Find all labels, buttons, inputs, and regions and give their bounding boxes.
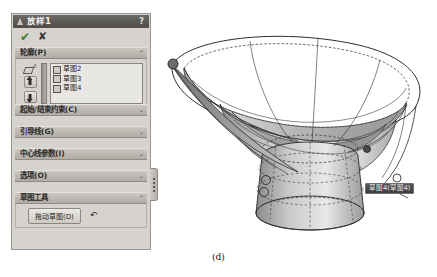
handle-dots (153, 178, 155, 192)
list-item[interactable]: 草图2 (53, 65, 140, 75)
loft-cone-icon (16, 17, 24, 26)
graphics-viewport[interactable] (158, 8, 437, 250)
section-centerline-parameters-label: 中心线参数(I) (20, 148, 139, 160)
panel-title: 放样1 (27, 15, 139, 28)
profile-selection-list[interactable]: 草图2 草图3 草图4 (50, 63, 143, 104)
selection-color-bar (41, 63, 47, 104)
section-sketch-tools: 草图工具 ⌃ 拖动草图(D) ↷ (15, 192, 147, 228)
section-guide-curves-label: 引导线(G) (20, 126, 139, 138)
panel-titlebar: 放样1 ? (13, 15, 149, 28)
section-start-end-constraints[interactable]: 起始/结束约束(C) ⌄ (15, 104, 147, 116)
section-guide-curves[interactable]: 引导线(G) ⌄ (15, 126, 147, 138)
move-down-button[interactable] (24, 91, 37, 103)
chevron-down-icon[interactable]: ⌄ (139, 104, 144, 116)
drag-sketch-button[interactable]: 拖动草图(D) (28, 208, 81, 224)
sketch-icon (53, 75, 61, 83)
lofted-funnel-surface (158, 8, 437, 250)
sketch-point-handle-4[interactable] (393, 174, 401, 182)
cancel-x-icon[interactable]: ✘ (38, 31, 47, 42)
section-guide-curves-header[interactable]: 引导线(G) ⌄ (15, 126, 147, 138)
section-sketch-tools-body: 拖动草图(D) ↷ (15, 204, 147, 228)
move-up-button[interactable] (24, 76, 37, 88)
spline-endpoint-handle[interactable] (168, 59, 178, 69)
profile-controls: 0 (19, 62, 41, 106)
profile-parallelogram-icon: 0 (24, 63, 37, 74)
section-options-label: 选项(O) (20, 170, 139, 182)
section-profile: 轮廓(P) ⌃ 0 草图2 草图3 (15, 47, 147, 110)
profile-icon-superscript: 0 (33, 63, 36, 69)
figure-caption: (d) (0, 252, 437, 262)
selection-callout-label: 草图4(草图4) (369, 184, 410, 193)
section-sketch-tools-label: 草图工具 (20, 192, 139, 204)
list-item[interactable]: 草图4 (53, 84, 140, 94)
list-item-label: 草图2 (63, 65, 81, 75)
section-options-header[interactable]: 选项(O) ⌄ (15, 170, 147, 182)
section-profile-header[interactable]: 轮廓(P) ⌃ (15, 47, 147, 59)
list-item[interactable]: 草图3 (53, 75, 140, 85)
selection-callout[interactable]: 草图4(草图4) (365, 183, 414, 194)
section-profile-body: 0 草图2 草图3 草图4 (15, 59, 147, 110)
sketch-icon (53, 66, 61, 74)
chevron-down-icon[interactable]: ⌄ (139, 126, 144, 138)
help-button[interactable]: ? (139, 17, 146, 26)
undo-arrow-icon[interactable]: ↷ (90, 211, 98, 220)
panel-drag-handle-icon[interactable] (150, 168, 158, 201)
section-profile-label: 轮廓(P) (20, 47, 139, 59)
loft-property-manager-panel: 放样1 ? ✔ ✘ 轮廓(P) ⌃ 0 草图2 (11, 13, 151, 250)
section-start-end-constraints-header[interactable]: 起始/结束约束(C) ⌄ (15, 104, 147, 116)
chevron-down-icon[interactable]: ⌄ (139, 170, 144, 182)
section-centerline-parameters-header[interactable]: 中心线参数(I) ⌄ (15, 148, 147, 160)
sketch-point-handle-3[interactable] (364, 146, 371, 153)
sketch-icon (53, 85, 61, 93)
section-options[interactable]: 选项(O) ⌄ (15, 170, 147, 182)
ok-checkmark-icon[interactable]: ✔ (20, 31, 30, 43)
list-item-label: 草图4 (63, 84, 81, 94)
chevron-up-icon[interactable]: ⌃ (139, 192, 144, 204)
section-start-end-constraints-label: 起始/结束约束(C) (20, 104, 139, 116)
list-item-label: 草图3 (63, 75, 81, 85)
confirm-toolbar: ✔ ✘ (13, 28, 149, 45)
section-sketch-tools-header[interactable]: 草图工具 ⌃ (15, 192, 147, 204)
section-centerline-parameters[interactable]: 中心线参数(I) ⌄ (15, 148, 147, 160)
chevron-up-icon[interactable]: ⌃ (139, 47, 144, 59)
chevron-down-icon[interactable]: ⌄ (139, 148, 144, 160)
